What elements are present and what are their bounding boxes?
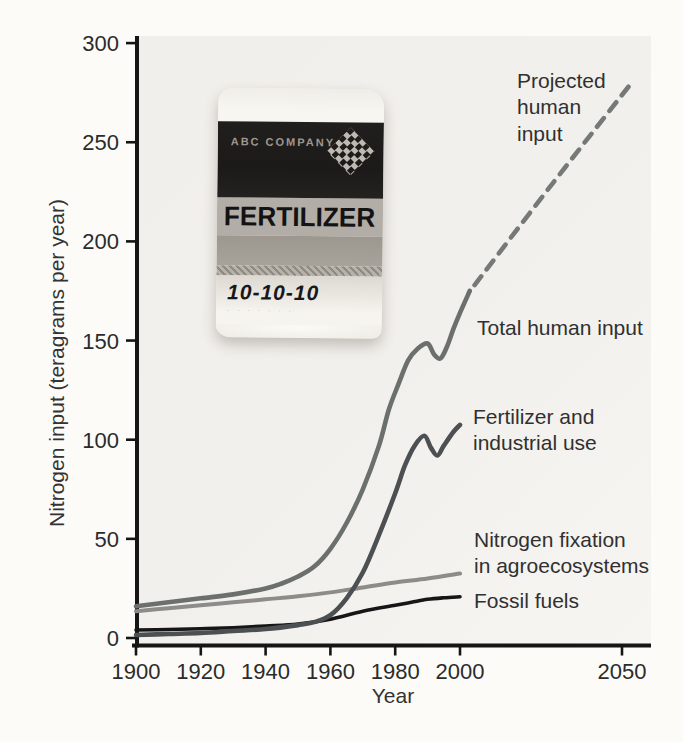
series-nitrogen-fixation-in-agroecosystems (136, 574, 460, 612)
label-fertilizer-industrial-use: Fertilizer and industrial use (473, 404, 597, 457)
label-projected-human-input: Projected human input (517, 68, 606, 147)
x-axis-title: Year (372, 684, 414, 708)
svg-text:2000: 2000 (436, 659, 485, 684)
label-fossil-fuels: Fossil fuels (474, 588, 579, 614)
svg-text:1920: 1920 (176, 659, 225, 684)
svg-text:2050: 2050 (598, 659, 647, 684)
svg-text:150: 150 (82, 329, 119, 354)
svg-text:200: 200 (82, 229, 119, 254)
svg-text:1960: 1960 (306, 659, 355, 684)
svg-text:300: 300 (82, 31, 119, 56)
svg-text:1900: 1900 (112, 659, 161, 684)
svg-text:1940: 1940 (241, 659, 290, 684)
svg-text:100: 100 (82, 428, 119, 453)
label-nitrogen-fixation: Nitrogen fixation in agroecosystems (474, 527, 649, 580)
series-total-human-input (136, 291, 470, 606)
svg-text:0: 0 (107, 626, 119, 651)
svg-text:1980: 1980 (371, 659, 420, 684)
label-total-human-input: Total human input (477, 315, 643, 341)
svg-text:250: 250 (82, 130, 119, 155)
y-axis-title: Nitrogen input (teragrams per year) (45, 199, 69, 527)
svg-text:50: 50 (95, 527, 119, 552)
